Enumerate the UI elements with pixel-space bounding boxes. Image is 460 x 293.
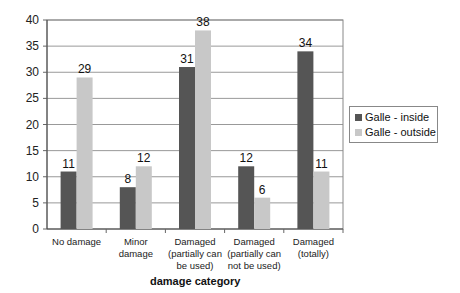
bar-outside <box>77 77 93 229</box>
y-tick-label: 10 <box>26 170 40 184</box>
x-tick-label: No damage <box>52 236 101 247</box>
x-tick-label: Damaged <box>234 236 275 247</box>
x-tick-label: damage <box>119 248 153 259</box>
y-tick-label: 40 <box>26 13 40 27</box>
data-label: 34 <box>299 36 313 50</box>
bar-outside <box>195 30 211 229</box>
y-tick-label: 15 <box>26 144 40 158</box>
y-tick-label: 25 <box>26 91 40 105</box>
legend-item-inside: Galle - inside <box>355 111 429 123</box>
data-label: 12 <box>137 151 151 165</box>
x-tick-label: not be used) <box>228 260 281 271</box>
bar-inside <box>238 166 254 229</box>
data-label: 38 <box>196 15 210 29</box>
data-label: 11 <box>315 157 328 171</box>
legend-swatch-outside <box>355 129 362 136</box>
x-tick-label: Minor <box>124 236 148 247</box>
y-tick-label: 0 <box>32 222 39 236</box>
chart-legend: Galle - inside Galle - outside <box>349 106 438 143</box>
legend-label-outside: Galle - outside <box>365 126 436 138</box>
bar-inside <box>120 187 136 229</box>
data-label: 31 <box>180 52 194 66</box>
bar-chart: 05101520253035401129No damage812Minordam… <box>0 0 460 293</box>
data-label: 12 <box>240 151 254 165</box>
legend-item-outside: Galle - outside <box>355 126 436 138</box>
bar-inside <box>297 51 313 229</box>
y-tick-label: 20 <box>26 118 40 132</box>
data-label: 8 <box>124 172 131 186</box>
x-tick-label: be used) <box>177 260 214 271</box>
bar-inside <box>61 172 77 229</box>
x-tick-label: Damaged <box>293 236 334 247</box>
y-tick-label: 5 <box>32 196 39 210</box>
legend-label-inside: Galle - inside <box>365 111 429 123</box>
y-tick-label: 35 <box>26 39 40 53</box>
bar-inside <box>179 67 195 229</box>
bar-outside <box>313 172 329 229</box>
data-label: 11 <box>62 157 75 171</box>
x-axis-title: damage category <box>150 275 240 287</box>
x-tick-label: (partially can <box>227 248 281 259</box>
data-label: 29 <box>78 62 92 76</box>
data-label: 6 <box>259 183 266 197</box>
bar-outside <box>254 198 270 229</box>
x-tick-label: Damaged <box>174 236 215 247</box>
x-tick-label: (partially can <box>168 248 222 259</box>
x-tick-label: (totally) <box>298 248 329 259</box>
y-tick-label: 30 <box>26 65 40 79</box>
bar-outside <box>136 166 152 229</box>
legend-swatch-inside <box>355 114 362 121</box>
